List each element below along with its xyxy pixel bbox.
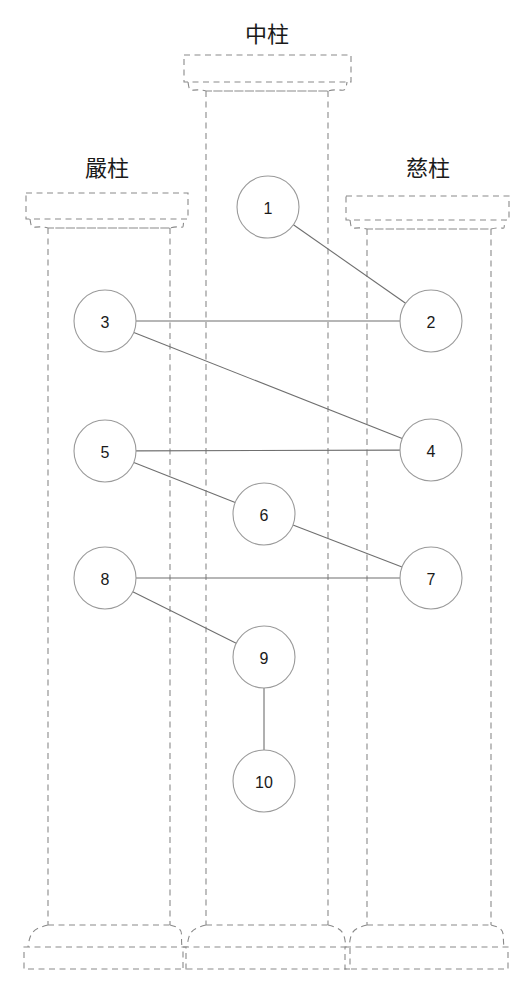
nodes-layer: 12345678910 — [74, 176, 462, 812]
diagram-root: 12345678910 嚴柱中柱慈柱 — [0, 0, 530, 1000]
node-10[interactable]: 10 — [233, 750, 295, 812]
node-label-10: 10 — [255, 774, 273, 791]
node-label-1: 1 — [264, 200, 273, 217]
three-pillar-diagram: 12345678910 嚴柱中柱慈柱 — [0, 0, 530, 1000]
node-3[interactable]: 3 — [74, 290, 136, 352]
pillar-label-center-pillar: 中柱 — [245, 22, 289, 47]
node-9[interactable]: 9 — [233, 626, 295, 688]
edge-8-9 — [133, 592, 236, 643]
edge-3-4 — [134, 332, 402, 438]
node-label-3: 3 — [101, 314, 110, 331]
edge-5-4 — [136, 450, 400, 451]
labels-layer: 嚴柱中柱慈柱 — [85, 22, 450, 181]
pillar-label-left-pillar: 嚴柱 — [85, 156, 129, 181]
edge-6-7 — [293, 525, 402, 567]
pillar-label-right-pillar: 慈柱 — [406, 156, 450, 181]
node-7[interactable]: 7 — [400, 547, 462, 609]
node-2[interactable]: 2 — [400, 290, 462, 352]
node-label-8: 8 — [101, 571, 110, 588]
node-4[interactable]: 4 — [400, 419, 462, 481]
node-label-4: 4 — [427, 443, 436, 460]
node-label-2: 2 — [427, 314, 436, 331]
edge-5-6 — [134, 462, 235, 502]
node-label-6: 6 — [260, 507, 269, 524]
node-label-5: 5 — [101, 444, 110, 461]
node-1[interactable]: 1 — [237, 176, 299, 238]
node-5[interactable]: 5 — [74, 420, 136, 482]
node-6[interactable]: 6 — [233, 483, 295, 545]
edge-1-2 — [293, 225, 405, 303]
node-8[interactable]: 8 — [74, 547, 136, 609]
node-label-9: 9 — [260, 650, 269, 667]
node-label-7: 7 — [427, 571, 436, 588]
